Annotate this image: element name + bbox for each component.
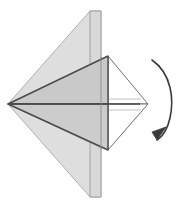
origami-figure [0,0,176,208]
origami-diagram-canvas [0,0,176,208]
